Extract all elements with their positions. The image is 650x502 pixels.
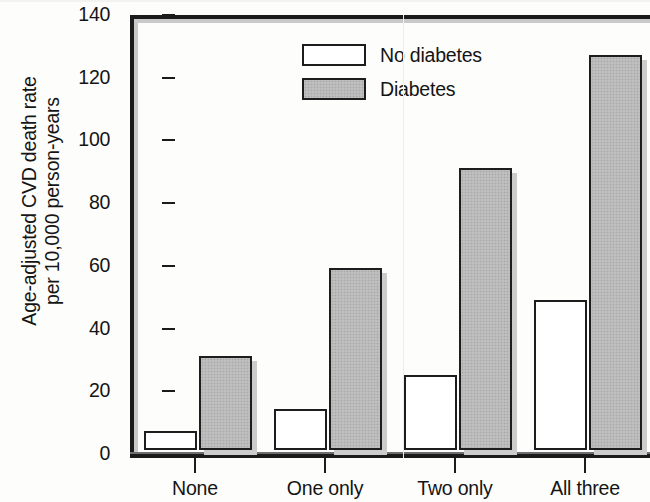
legend-label: No diabetes (380, 45, 482, 65)
y-axis-title-line-1: Age-adjusted CVD death rate (18, 16, 41, 386)
bar-body (589, 55, 642, 450)
x-axis-tick-label: One only (287, 477, 363, 499)
bar-two-only-diabetes (459, 168, 512, 450)
legend-item-no-diabetes: No diabetes (302, 41, 552, 69)
y-axis-tick-label: 60 (50, 256, 110, 276)
plot-area: No diabetesDiabetes (130, 15, 650, 458)
y-axis-tick-label: 20 (50, 381, 110, 401)
y-axis-tick-label: 80 (50, 193, 110, 213)
x-axis-tick-mark (454, 458, 456, 473)
y-axis-tick-label: 140 (50, 5, 110, 25)
legend-item-diabetes: Diabetes (302, 75, 552, 103)
bar-none-diabetes (199, 356, 252, 450)
legend-label: Diabetes (380, 79, 455, 99)
x-axis-tick-label: None (172, 477, 218, 499)
y-axis-tick-label: 40 (50, 319, 110, 339)
bar-body (459, 168, 512, 450)
bar-none-no-diabetes (144, 431, 197, 450)
y-axis-tick-label: 100 (50, 130, 110, 150)
open-swatch (302, 44, 366, 66)
bar-all-three-no-diabetes (534, 300, 587, 451)
chart-legend: No diabetesDiabetes (302, 41, 552, 109)
x-axis-ticks: NoneOne onlyTwo onlyAll three (130, 458, 650, 502)
x-axis-tick-label: Two only (417, 477, 492, 499)
bar-body (534, 300, 587, 451)
bar-one-only-diabetes (329, 268, 382, 450)
bar-chart-figure: Age-adjusted CVD death rate per 10,000 p… (0, 0, 650, 502)
bar-body (274, 409, 327, 450)
bar-body (329, 268, 382, 450)
bar-two-only-no-diabetes (404, 375, 457, 450)
x-axis-tick-mark (324, 458, 326, 473)
x-axis-tick-label: All three (550, 477, 620, 499)
x-axis-tick-mark (584, 458, 586, 473)
y-axis-tick-label: 120 (50, 68, 110, 88)
bar-one-only-no-diabetes (274, 409, 327, 450)
bar-body (404, 375, 457, 450)
bar-body (144, 431, 197, 450)
bar-all-three-diabetes (589, 55, 642, 450)
y-axis-tick-label: 0 (50, 444, 110, 464)
x-axis-tick-mark (194, 458, 196, 473)
filled-swatch (302, 78, 366, 100)
bar-body (199, 356, 252, 450)
y-axis-ticks: 020406080100120140 (48, 0, 110, 502)
